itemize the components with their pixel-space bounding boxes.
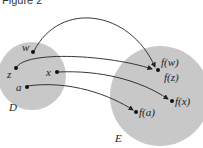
point-x	[55, 70, 59, 74]
point-w	[31, 50, 35, 54]
figure-title: Figure 2	[2, 0, 42, 6]
point-fw-fz	[156, 68, 160, 72]
label-fz: f(z)	[164, 71, 179, 84]
label-fa: f(a)	[139, 106, 155, 119]
function-mapping-diagram: Figure 2 w z x a D f(w) f(z) f(x) f(a) E	[0, 0, 203, 148]
point-z	[14, 66, 18, 70]
point-fa	[134, 110, 138, 114]
label-a: a	[16, 81, 22, 93]
label-z: z	[6, 68, 12, 80]
point-fx	[170, 99, 174, 103]
label-set-e: E	[114, 132, 122, 144]
label-fx: f(x)	[175, 95, 191, 108]
label-w: w	[22, 41, 30, 53]
point-a	[25, 85, 29, 89]
label-fw: f(w)	[161, 56, 179, 69]
label-x: x	[45, 66, 51, 78]
label-set-d: D	[8, 101, 17, 113]
